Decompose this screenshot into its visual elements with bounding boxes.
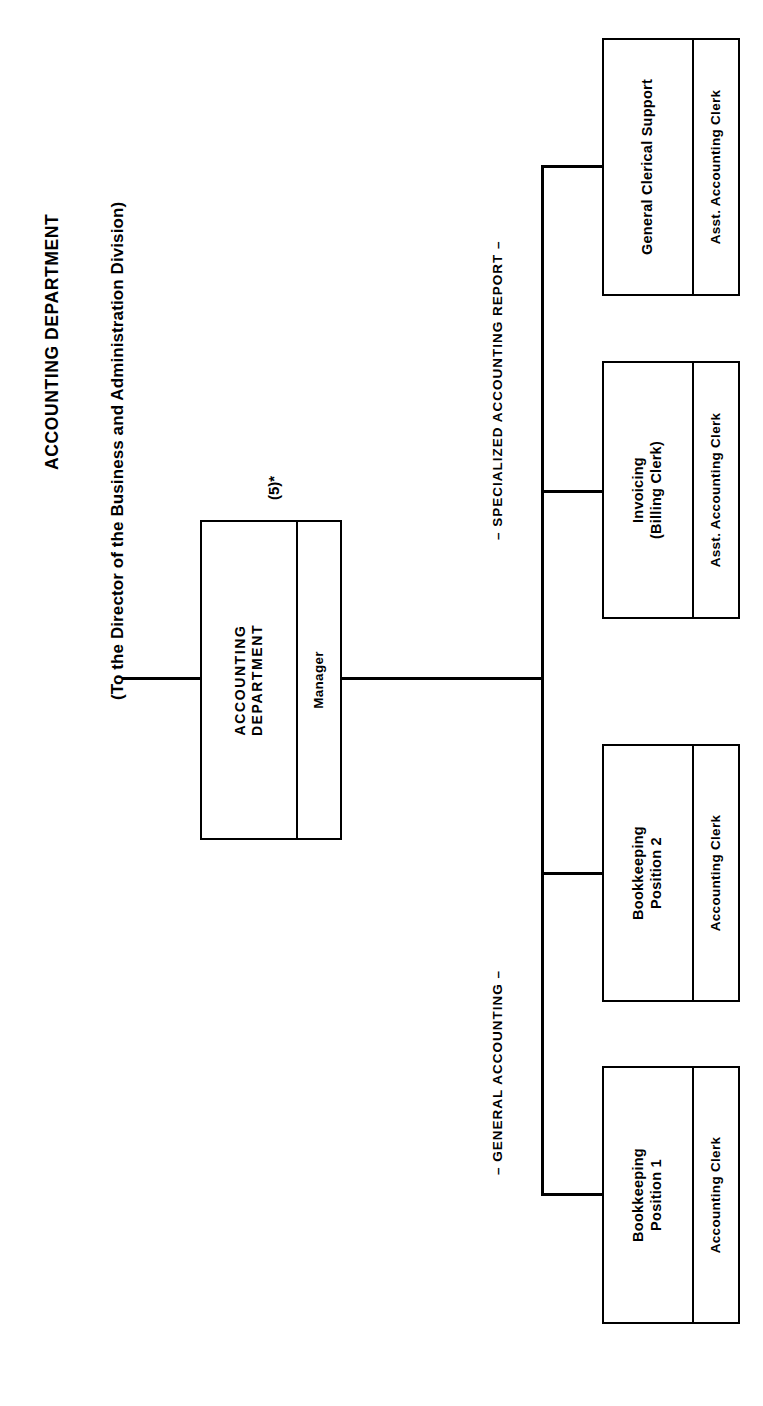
node-title-line1: Invoicing (630, 441, 648, 539)
page-title: ACCOUNTING DEPARTMENT (42, 214, 63, 470)
node-role-label: Asst. Accounting Clerk (708, 90, 724, 245)
node-title-line2: (Billing Clerk) (648, 441, 666, 539)
connector-spine-to-general-clerical-support (541, 165, 603, 168)
node-role-label: Manager (311, 651, 327, 709)
node-role-label: Accounting Clerk (708, 815, 724, 932)
group-label-general: – GENERAL ACCOUNTING – (490, 970, 506, 1175)
connector-spine (541, 165, 544, 1195)
node-role-label: Accounting Clerk (708, 1137, 724, 1254)
node-title-line1: Bookkeeping (630, 826, 648, 920)
node-role-cell: Accounting Clerk (694, 1068, 738, 1322)
node-general-clerical-support[interactable]: General Clerical Support Asst. Accountin… (602, 38, 740, 296)
node-title-line1: General Clerical Support (639, 79, 657, 255)
connector-spine-to-bookkeeping-position-1 (541, 1193, 603, 1196)
node-title-line1: Bookkeeping (630, 1148, 648, 1242)
root-annotation: (5)* (265, 476, 283, 500)
node-title-line2: Position 1 (648, 1148, 666, 1242)
node-title-cell: Bookkeeping Position 1 (604, 1068, 694, 1322)
page-subtitle: (To the Director of the Business and Adm… (108, 202, 128, 700)
node-title-cell: General Clerical Support (604, 40, 694, 294)
node-accounting-department[interactable]: ACCOUNTING DEPARTMENT Manager (200, 520, 342, 840)
connector-spine-to-invoicing (541, 490, 603, 493)
org-chart-page: { "page": { "title": "ACCOUNTING DEPARTM… (0, 0, 763, 1406)
node-title-cell: ACCOUNTING DEPARTMENT (202, 522, 298, 838)
connector-root-to-spine (342, 677, 544, 680)
node-role-cell: Asst. Accounting Clerk (694, 363, 738, 617)
node-invoicing[interactable]: Invoicing (Billing Clerk) Asst. Accounti… (602, 361, 740, 619)
node-title-cell: Invoicing (Billing Clerk) (604, 363, 694, 617)
node-role-cell: Asst. Accounting Clerk (694, 40, 738, 294)
node-title-line2: Position 2 (648, 826, 666, 920)
node-role-label: Asst. Accounting Clerk (708, 413, 724, 568)
node-bookkeeping-position-1[interactable]: Bookkeeping Position 1 Accounting Clerk (602, 1066, 740, 1324)
connector-parent-incoming (122, 677, 200, 680)
connector-spine-to-bookkeeping-position-2 (541, 872, 603, 875)
group-label-specialized: – SPECIALIZED ACCOUNTING REPORT – (490, 240, 506, 540)
node-role-cell: Manager (298, 522, 340, 838)
node-title-line1: ACCOUNTING (232, 624, 249, 736)
node-bookkeeping-position-2[interactable]: Bookkeeping Position 2 Accounting Clerk (602, 744, 740, 1002)
node-role-cell: Accounting Clerk (694, 746, 738, 1000)
node-title-cell: Bookkeeping Position 2 (604, 746, 694, 1000)
node-title-line2: DEPARTMENT (249, 624, 266, 736)
